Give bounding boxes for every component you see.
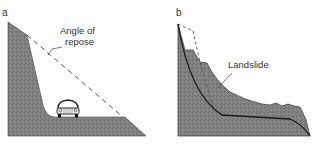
- panel-b: b Landslide: [176, 7, 310, 136]
- panel-a-label: a: [2, 7, 8, 18]
- angle-of-repose-label: Angle of repose: [60, 25, 98, 47]
- panel-b-label: b: [176, 7, 182, 18]
- landslide-label: Landslide: [228, 59, 269, 70]
- landslide-leader: [218, 73, 232, 88]
- angle-of-repose-leader: [48, 47, 62, 55]
- car-icon: [57, 100, 79, 118]
- panel-a: a Angle of repose: [2, 7, 146, 136]
- landslide-diagram: a Angle of repose b Landslide: [0, 0, 317, 144]
